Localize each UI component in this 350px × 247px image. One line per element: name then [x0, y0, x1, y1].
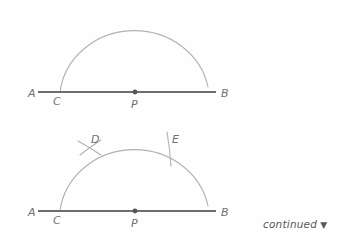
- chevron-down-icon: ▼: [320, 220, 327, 230]
- tick-mark-E: [167, 132, 171, 166]
- point-P-top: [133, 90, 138, 95]
- panel-step-1: A C P B: [27, 31, 229, 111]
- label-E-bottom: E: [172, 133, 179, 146]
- point-P-bottom: [133, 209, 138, 214]
- construction-figure: A C P B A C P B: [0, 0, 350, 247]
- label-C-bottom: C: [53, 214, 61, 227]
- label-A-top: A: [27, 87, 36, 100]
- continued-note: continued▼: [263, 218, 327, 230]
- label-P-top: P: [131, 98, 138, 111]
- panel-step-2: A C P B D E: [27, 132, 229, 230]
- label-D-bottom: D: [91, 133, 99, 146]
- figure-page: A C P B A C P B: [0, 0, 350, 247]
- label-B-top: B: [221, 87, 229, 100]
- continued-label: continued: [263, 218, 317, 230]
- semicircle-arc-top: [60, 31, 208, 92]
- label-B-bottom: B: [221, 206, 229, 219]
- label-A-bottom: A: [27, 206, 36, 219]
- label-P-bottom: P: [131, 217, 138, 230]
- semicircle-arc-bottom: [60, 150, 208, 211]
- label-C-top: C: [53, 95, 61, 108]
